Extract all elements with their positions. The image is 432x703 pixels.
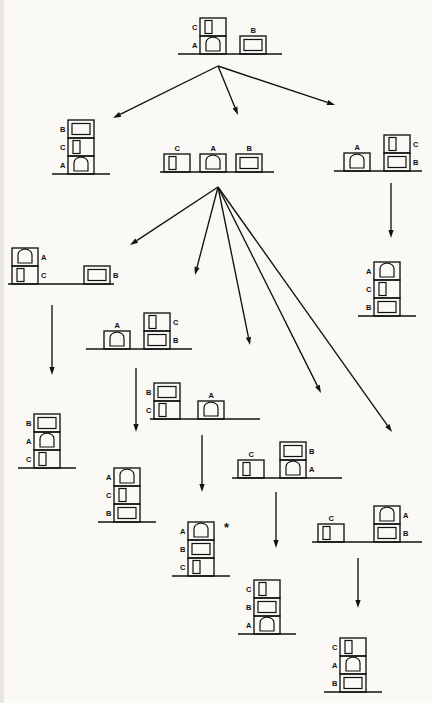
block-label: A xyxy=(403,511,409,520)
state-ACB-stack[interactable]: BCA xyxy=(358,240,418,322)
block-label: B xyxy=(332,679,338,688)
edge-root-to-n1 xyxy=(113,66,218,118)
block-c[interactable]: C xyxy=(180,558,214,576)
block-c[interactable]: C xyxy=(12,266,47,284)
block-c[interactable]: C xyxy=(192,18,226,36)
block-a[interactable]: A xyxy=(200,144,226,172)
block-a[interactable]: A xyxy=(344,143,370,171)
state-AC-stack-B-table[interactable]: CAB xyxy=(8,238,116,290)
root-state[interactable]: ACB xyxy=(178,8,283,60)
block-c[interactable]: C xyxy=(366,280,400,298)
block-b[interactable]: B xyxy=(84,266,119,284)
block-c[interactable]: C xyxy=(246,580,280,598)
block-c[interactable]: C xyxy=(318,514,344,542)
edge-n2-to-n7 xyxy=(218,187,321,393)
block-b[interactable]: B xyxy=(26,414,60,432)
block-label: C xyxy=(249,450,255,459)
block-stack: ABC xyxy=(246,580,280,634)
block-c[interactable]: C xyxy=(384,135,419,153)
block-b[interactable]: B xyxy=(366,298,400,316)
state-A-table-BC-stack[interactable]: ABC xyxy=(86,300,194,355)
block-label: A xyxy=(332,661,338,670)
block-label: C xyxy=(146,406,152,415)
state-BCA-stack[interactable]: ACB xyxy=(52,98,112,180)
block-c[interactable]: C xyxy=(238,450,264,478)
block-c[interactable]: C xyxy=(60,138,94,156)
block-label: C xyxy=(173,318,179,327)
block-stack: B xyxy=(240,26,266,54)
block-label: B xyxy=(60,125,66,134)
block-label: B xyxy=(309,447,315,456)
block-stack: BA xyxy=(374,506,409,542)
block-b[interactable]: B xyxy=(144,331,179,349)
block-stack: A xyxy=(104,321,130,349)
block-label: A xyxy=(192,41,198,50)
block-c[interactable]: C xyxy=(26,450,60,468)
block-label: B xyxy=(146,388,152,397)
block-c[interactable]: C xyxy=(106,486,140,504)
block-a[interactable]: A xyxy=(104,321,130,349)
state-ABC-stack[interactable]: ABC xyxy=(238,558,298,640)
block-a[interactable]: A xyxy=(60,156,94,174)
block-b[interactable]: B xyxy=(106,504,140,522)
block-a[interactable]: A xyxy=(246,616,280,634)
block-stack: CA xyxy=(12,248,47,284)
state-A-table-CB-stack[interactable]: ABC xyxy=(334,122,424,177)
block-a[interactable]: A xyxy=(26,432,60,450)
block-label: C xyxy=(175,144,181,153)
block-label: B xyxy=(106,509,112,518)
block-stack: AB xyxy=(280,442,315,478)
block-label: A xyxy=(246,621,252,630)
block-a[interactable]: A xyxy=(280,460,315,478)
block-b[interactable]: B xyxy=(240,26,266,54)
block-label: B xyxy=(403,529,409,538)
block-label: A xyxy=(41,253,47,262)
block-b[interactable]: B xyxy=(236,144,262,172)
block-c[interactable]: C xyxy=(164,144,190,172)
block-label: B xyxy=(366,303,372,312)
edge-n4-to-n9 xyxy=(49,305,54,375)
block-stack: C xyxy=(164,144,190,172)
block-b[interactable]: B xyxy=(60,120,94,138)
block-a[interactable]: A xyxy=(374,506,409,524)
state-BCA-stack-2[interactable]: BCA xyxy=(98,446,158,528)
block-b[interactable]: B xyxy=(246,598,280,616)
state-C-table-BA-stack[interactable]: CBA xyxy=(312,492,424,548)
block-b[interactable]: B xyxy=(384,153,419,171)
block-c[interactable]: C xyxy=(332,638,366,656)
state-CAB-stack[interactable]: CAB xyxy=(18,392,78,474)
block-label: C xyxy=(180,563,186,572)
block-b[interactable]: B xyxy=(374,524,409,542)
diagram-canvas: ACBACBCABABCCABABCCBACABCBACABBCACBA*ABC… xyxy=(0,0,432,703)
block-a[interactable]: A xyxy=(180,522,214,540)
state-BAC-stack[interactable]: BAC xyxy=(324,614,384,698)
block-stack: BC xyxy=(144,313,179,349)
block-a[interactable]: A xyxy=(192,36,226,54)
state-CB-stack-A-table[interactable]: CBA xyxy=(150,370,262,425)
block-label: B xyxy=(180,545,186,554)
block-c[interactable]: C xyxy=(144,313,179,331)
block-label: C xyxy=(106,491,112,500)
block-a[interactable]: A xyxy=(12,248,47,266)
block-c[interactable]: C xyxy=(146,401,180,419)
block-label: B xyxy=(173,336,179,345)
edge-n8-to-n13 xyxy=(355,558,360,608)
block-label: A xyxy=(366,267,372,276)
block-b[interactable]: B xyxy=(332,674,366,692)
block-b[interactable]: B xyxy=(180,540,214,558)
block-label: A xyxy=(309,465,315,474)
block-stack: AC xyxy=(192,18,226,54)
block-b[interactable]: B xyxy=(146,383,180,401)
block-a[interactable]: A xyxy=(106,468,140,486)
state-C-table-AB-stack[interactable]: CAB xyxy=(232,428,344,484)
block-b[interactable]: B xyxy=(280,442,315,460)
block-label: A xyxy=(106,473,112,482)
edge-root-to-n3 xyxy=(218,66,335,105)
block-label: C xyxy=(26,455,32,464)
goal-state-CBA-stack[interactable]: CBA* xyxy=(172,500,232,582)
block-label: C xyxy=(60,143,66,152)
state-all-on-table[interactable]: CAB xyxy=(160,128,275,178)
block-a[interactable]: A xyxy=(366,262,400,280)
block-a[interactable]: A xyxy=(198,391,224,419)
block-a[interactable]: A xyxy=(332,656,366,674)
